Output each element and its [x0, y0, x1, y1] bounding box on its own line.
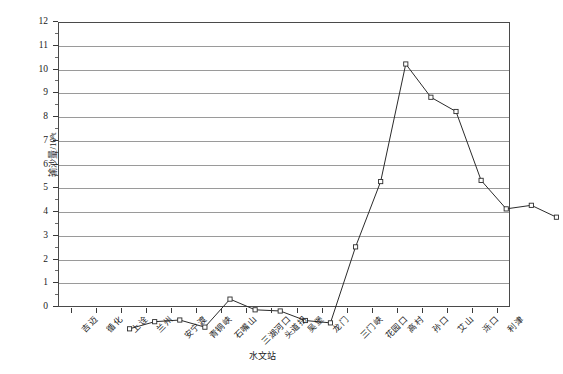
gridline	[59, 236, 509, 237]
y-axis-minor-tick	[55, 270, 58, 271]
y-axis-minor-tick	[55, 33, 58, 34]
data-point-marker	[253, 308, 257, 312]
x-axis-tick-label: 泺口	[482, 315, 501, 334]
data-point-marker	[178, 318, 182, 322]
gridline	[59, 93, 509, 94]
x-axis-tick	[146, 308, 147, 313]
data-point-marker	[504, 207, 508, 211]
x-axis-tick	[397, 308, 398, 313]
x-axis-tick-label: 吉迈	[80, 315, 99, 334]
x-axis-tick-label: 高村	[406, 315, 425, 334]
x-axis-tick	[196, 308, 197, 313]
x-axis-tick-label: 青铜峡	[208, 315, 233, 340]
data-point-marker	[404, 62, 408, 66]
y-axis-tick-label: 1	[26, 278, 48, 288]
y-axis-title: 输沙量/10⁸t	[46, 85, 59, 225]
y-axis-minor-tick	[55, 294, 58, 295]
x-axis-tick	[171, 308, 172, 313]
x-axis-tick	[121, 308, 122, 313]
y-axis-tick-label: 2	[26, 255, 48, 265]
x-axis-tick-label: 安宁渡	[183, 315, 208, 340]
x-axis-tick	[297, 308, 298, 313]
x-axis-tick-label: 循化	[105, 315, 124, 334]
data-point-marker	[379, 179, 383, 183]
y-axis-minor-tick	[55, 57, 58, 58]
data-point-marker	[228, 297, 232, 301]
x-axis-tick	[347, 308, 348, 313]
y-axis-tick	[53, 259, 58, 260]
x-axis-tick	[96, 308, 97, 313]
y-axis-tick	[53, 282, 58, 283]
y-axis-tick-label: 12	[26, 17, 48, 27]
x-axis-tick-label: 孙口	[431, 315, 450, 334]
gridline	[59, 141, 509, 142]
x-axis-tick	[271, 308, 272, 313]
gridline	[59, 188, 509, 189]
x-axis-tick-label: 利津	[507, 315, 526, 334]
gridline	[59, 165, 509, 166]
y-axis-tick	[53, 235, 58, 236]
x-axis-tick-label: 兰州	[155, 315, 174, 334]
x-axis-tick	[246, 308, 247, 313]
x-axis-tick	[71, 308, 72, 313]
data-point-marker	[353, 245, 357, 249]
data-point-marker	[429, 95, 433, 99]
x-axis-tick-label: 龙门	[331, 315, 350, 334]
gridline	[59, 46, 509, 47]
x-axis-tick	[422, 308, 423, 313]
x-axis-tick	[221, 308, 222, 313]
x-axis-tick	[322, 308, 323, 313]
data-point-marker	[278, 309, 282, 313]
x-axis-tick-label: 艾山	[456, 315, 475, 334]
y-axis-tick-label: 10	[26, 65, 48, 75]
y-axis-tick	[53, 69, 58, 70]
x-axis-tick-label: 吴堡	[306, 315, 325, 334]
y-axis-minor-tick	[55, 80, 58, 81]
x-axis-tick-label: 上诠	[130, 315, 149, 334]
data-point-marker	[454, 109, 458, 113]
gridline	[59, 70, 509, 71]
y-axis-tick-label: 0	[26, 302, 48, 312]
x-axis-tick	[497, 308, 498, 313]
plot-area	[58, 22, 510, 307]
data-point-marker	[554, 215, 558, 219]
x-axis-tick-label: 石嘴山	[233, 315, 258, 340]
gridline	[59, 212, 509, 213]
data-point-marker	[479, 178, 483, 182]
x-axis-tick	[472, 308, 473, 313]
x-axis-tick	[447, 308, 448, 313]
y-axis-tick	[53, 45, 58, 46]
x-axis-tick-label: 三门峡	[359, 315, 384, 340]
y-axis-minor-tick	[55, 247, 58, 248]
gridline	[59, 283, 509, 284]
y-axis-tick	[53, 21, 58, 22]
y-axis-tick-label: 3	[26, 231, 48, 241]
gridline	[59, 260, 509, 261]
data-point-marker	[529, 203, 533, 207]
y-axis-tick-label: 11	[26, 41, 48, 51]
series-line	[130, 64, 557, 329]
x-axis-tick	[372, 308, 373, 313]
y-axis-tick	[53, 306, 58, 307]
data-point-marker	[153, 320, 157, 324]
gridline	[59, 117, 509, 118]
x-axis-title: 水文站	[0, 349, 525, 362]
